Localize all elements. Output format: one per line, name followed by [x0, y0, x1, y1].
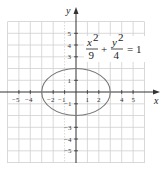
y-tick-label: −3 — [64, 124, 72, 132]
x-tick-label: 2 — [97, 96, 101, 104]
eq-exponent: 2 — [93, 31, 99, 43]
x-axis-arrow-icon — [153, 90, 160, 95]
y-tick-label: 1 — [68, 77, 72, 85]
eq-numerator-x: x — [86, 36, 92, 48]
eq-plus: + — [101, 43, 107, 55]
y-tick-label: −4 — [64, 136, 72, 144]
eq-numerator-y: y — [111, 36, 117, 48]
x-axis-label: x — [153, 95, 159, 106]
y-tick-label: 5 — [68, 30, 72, 38]
x-tick-labels: −5 −4 −2 −1 1 2 4 5 — [12, 96, 136, 104]
eq-exponent: 2 — [118, 31, 124, 43]
x-tick-label: 4 — [120, 96, 124, 104]
y-tick-label: 3 — [68, 53, 72, 61]
eq-denominator-4: 4 — [114, 49, 120, 61]
y-axis-label: y — [65, 5, 71, 16]
x-tick-label: −4 — [25, 96, 33, 104]
y-tick-label: 4 — [68, 42, 72, 50]
x-tick-label: 1 — [86, 96, 90, 104]
x-tick-label: −2 — [47, 96, 55, 104]
x-tick-label: 5 — [132, 96, 136, 104]
x-tick-label: −5 — [12, 96, 20, 104]
y-axis-arrow-icon — [74, 7, 79, 14]
eq-rhs: = 1 — [127, 43, 141, 55]
y-tick-label: −1 — [64, 100, 72, 108]
eq-denominator-9: 9 — [89, 49, 95, 61]
y-tick-label: −5 — [64, 147, 72, 155]
equation-label: x 2 9 + y 2 4 = 1 — [84, 31, 152, 62]
ellipse-graph: x y −5 −4 −2 −1 1 2 4 5 — [0, 0, 165, 175]
y-tick-labels: 5 4 3 1 −1 −3 −4 −5 — [64, 30, 72, 155]
